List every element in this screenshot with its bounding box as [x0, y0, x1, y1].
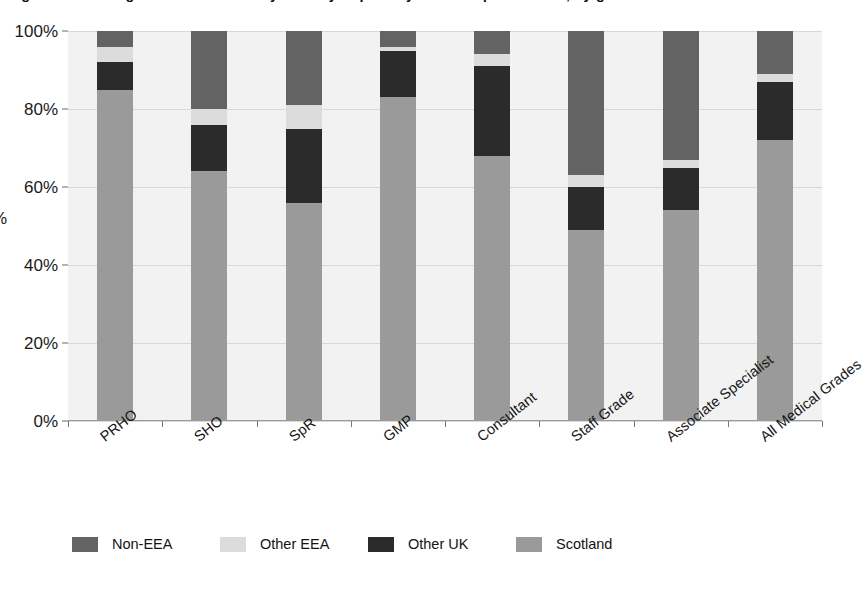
bar-segment[interactable] — [191, 109, 227, 125]
y-axis-tick-label: 80% — [24, 101, 58, 118]
bar-segment[interactable] — [568, 230, 604, 421]
bar-segment[interactable] — [474, 156, 510, 421]
stacked-bar[interactable] — [191, 31, 227, 421]
y-axis-tick-mark — [62, 31, 68, 32]
y-axis-title: % — [0, 209, 7, 229]
bar-segment[interactable] — [380, 47, 416, 51]
bar-segment[interactable] — [191, 125, 227, 172]
legend-item[interactable]: Non-EEA — [72, 534, 172, 554]
y-axis-tick-label: 100% — [15, 23, 58, 40]
bar-segment[interactable] — [286, 31, 322, 105]
bar-segment[interactable] — [474, 66, 510, 156]
legend-item[interactable]: Other EEA — [220, 534, 329, 554]
legend-swatch-icon — [368, 537, 394, 552]
bar-segment[interactable] — [191, 31, 227, 109]
stacked-bar[interactable] — [286, 31, 322, 421]
bar-segment[interactable] — [568, 187, 604, 230]
bar-segment[interactable] — [757, 31, 793, 74]
legend-label: Other EEA — [260, 536, 329, 552]
bar-column[interactable] — [380, 31, 416, 421]
legend-swatch-icon — [220, 537, 246, 552]
gridline — [68, 187, 822, 188]
bar-segment[interactable] — [568, 31, 604, 175]
legend-swatch-icon — [72, 537, 98, 552]
bar-column[interactable] — [191, 31, 227, 421]
bar-segment[interactable] — [474, 54, 510, 66]
stacked-bar[interactable] — [663, 31, 699, 421]
bar-segment[interactable] — [286, 203, 322, 421]
y-axis-tick-label: 40% — [24, 257, 58, 274]
bar-segment[interactable] — [663, 168, 699, 211]
legend-swatch-icon — [516, 537, 542, 552]
bar-segment[interactable] — [380, 97, 416, 421]
bar-segment[interactable] — [380, 31, 416, 47]
y-axis-tick-mark — [62, 109, 68, 110]
bar-segment[interactable] — [380, 51, 416, 98]
x-axis-tick-mark — [162, 421, 163, 427]
x-axis-tick-mark — [445, 421, 446, 427]
bar-column[interactable] — [286, 31, 322, 421]
stacked-bar[interactable] — [568, 31, 604, 421]
bar-segment[interactable] — [97, 31, 133, 47]
bar-segment[interactable] — [97, 62, 133, 89]
y-axis-tick-label: 60% — [24, 179, 58, 196]
bar-segment[interactable] — [663, 210, 699, 421]
legend-item[interactable]: Scotland — [516, 534, 612, 554]
y-axis-tick-mark — [62, 187, 68, 188]
bar-column[interactable] — [663, 31, 699, 421]
x-axis-tick-mark — [539, 421, 540, 427]
y-axis-tick-label: 0% — [33, 413, 58, 430]
bar-column[interactable] — [97, 31, 133, 421]
gridline — [68, 265, 822, 266]
x-axis-tick-mark — [257, 421, 258, 427]
y-axis-tick-mark — [62, 265, 68, 266]
bar-segment[interactable] — [757, 140, 793, 421]
gridline — [68, 109, 822, 110]
legend-label: Other UK — [408, 536, 468, 552]
bar-segment[interactable] — [286, 129, 322, 203]
bar-segment[interactable] — [191, 171, 227, 421]
stacked-bar[interactable] — [380, 31, 416, 421]
bar-segment[interactable] — [97, 90, 133, 422]
legend-label: Scotland — [556, 536, 612, 552]
bar-column[interactable] — [474, 31, 510, 421]
stacked-bar[interactable] — [474, 31, 510, 421]
chart-title: Figure: Percentage of medical staff by c… — [8, 0, 822, 2]
y-axis-tick-mark — [62, 343, 68, 344]
plot-area — [68, 31, 822, 421]
gridline — [68, 31, 822, 32]
x-axis-tick-mark — [351, 421, 352, 427]
bar-column[interactable] — [568, 31, 604, 421]
x-axis-tick-mark — [68, 421, 69, 427]
bar-segment[interactable] — [97, 47, 133, 63]
bar-segment[interactable] — [286, 105, 322, 128]
stacked-bar[interactable] — [97, 31, 133, 421]
x-axis-tick-mark — [728, 421, 729, 427]
bar-segment[interactable] — [663, 31, 699, 160]
bar-segment[interactable] — [757, 74, 793, 82]
bar-segment[interactable] — [757, 82, 793, 141]
bar-segment[interactable] — [663, 160, 699, 168]
x-axis-tick-mark — [822, 421, 823, 427]
legend-item[interactable]: Other UK — [368, 534, 468, 554]
y-axis-tick-label: 20% — [24, 335, 58, 352]
gridline — [68, 343, 822, 344]
bar-segment[interactable] — [474, 31, 510, 54]
bar-segment[interactable] — [568, 175, 604, 187]
x-axis-tick-mark — [634, 421, 635, 427]
legend-label: Non-EEA — [112, 536, 172, 552]
